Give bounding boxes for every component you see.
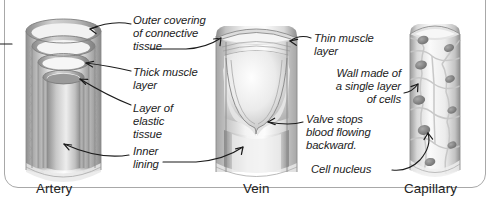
label-thin-muscle: Thin muscle layer (314, 32, 400, 58)
caption-artery: Artery (36, 181, 72, 196)
label-valve: Valve stops blood flowing backward. (306, 113, 402, 153)
label-single-layer-wall: Wall made of a single layer of cells (303, 67, 401, 107)
vessel-illustrations (0, 0, 493, 208)
artery-illustration (26, 19, 101, 182)
label-thick-muscle: Thick muscle layer (133, 66, 225, 92)
label-outer-covering: Outer covering of connective tissue (133, 14, 228, 54)
caption-capillary: Capillary (404, 181, 457, 196)
capillary-illustration (410, 24, 460, 177)
blood-vessel-diagram: Outer covering of connective tissue Thic… (0, 0, 493, 208)
vein-illustration (216, 26, 297, 177)
label-inner-lining: Inner lining (133, 145, 203, 171)
label-elastic-tissue: Layer of elastic tissue (133, 102, 203, 142)
caption-vein: Vein (243, 181, 269, 196)
label-cell-nucleus: Cell nucleus (311, 163, 401, 176)
